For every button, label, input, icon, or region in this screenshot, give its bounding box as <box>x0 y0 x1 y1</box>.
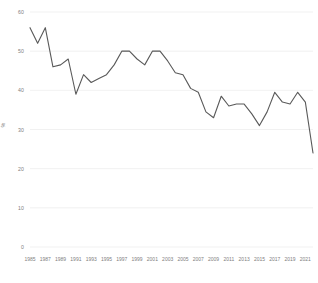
x-tick-label: 1993 <box>86 256 97 262</box>
x-tick-label: 1989 <box>55 256 66 262</box>
y-tick-label: 20 <box>8 166 24 172</box>
y-tick-label: 50 <box>8 48 24 54</box>
x-tick-label: 2009 <box>208 256 219 262</box>
x-tick-label: 1985 <box>24 256 35 262</box>
x-tick-label: 2005 <box>177 256 188 262</box>
gridlines <box>30 12 313 247</box>
x-tick-label: 1991 <box>70 256 81 262</box>
x-tick-label: 2011 <box>223 256 234 262</box>
x-tick-label: 2015 <box>254 256 265 262</box>
x-tick-label: 2017 <box>269 256 280 262</box>
y-tick-label: 30 <box>8 127 24 133</box>
line-chart: 0102030405060 19851987198919911993199519… <box>0 0 318 283</box>
x-tick-label: 1999 <box>132 256 143 262</box>
y-tick-label: 0 <box>8 244 24 250</box>
x-tick-label: 2021 <box>300 256 311 262</box>
x-tick-label: 1987 <box>40 256 51 262</box>
y-axis-title: % <box>0 123 6 128</box>
x-tick-label: 2019 <box>284 256 295 262</box>
y-tick-label: 10 <box>8 205 24 211</box>
y-tick-label: 60 <box>8 9 24 15</box>
y-tick-label: 40 <box>8 87 24 93</box>
x-tick-label: 2007 <box>193 256 204 262</box>
x-tick-label: 2013 <box>239 256 250 262</box>
x-tick-label: 1995 <box>101 256 112 262</box>
x-tick-label: 1997 <box>116 256 127 262</box>
x-tick-label: 2001 <box>147 256 158 262</box>
chart-plot-area <box>0 0 318 283</box>
x-tick-label: 2003 <box>162 256 173 262</box>
